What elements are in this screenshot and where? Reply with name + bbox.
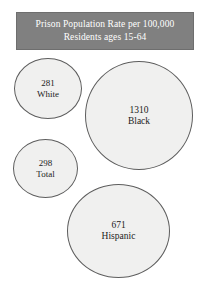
bubble-hispanic: 671 Hispanic	[67, 184, 170, 278]
bubble-white-label: White	[37, 89, 59, 100]
bubble-black-label: Black	[128, 116, 150, 127]
chart-title-line-1: Prison Population Rate per 100,000	[36, 18, 175, 31]
bubble-total: 298 Total	[13, 139, 78, 198]
bubble-black: 1310 Black	[85, 61, 193, 170]
bubble-hispanic-label: Hispanic	[102, 231, 136, 242]
chart-title-line-2: Residents ages 15-64	[64, 31, 147, 44]
bubble-black-value: 1310	[130, 105, 149, 116]
bubble-total-label: Total	[36, 169, 54, 180]
chart-title-banner: Prison Population Rate per 100,000 Resid…	[16, 12, 194, 50]
bubble-chart-figure: Prison Population Rate per 100,000 Resid…	[0, 0, 210, 287]
bubble-total-value: 298	[39, 158, 53, 169]
bubble-hispanic-value: 671	[111, 220, 125, 231]
bubble-white-value: 281	[41, 78, 55, 89]
bubble-white: 281 White	[14, 58, 82, 119]
